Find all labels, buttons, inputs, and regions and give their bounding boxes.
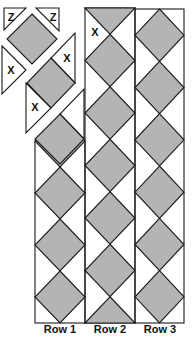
row-2-diamond <box>85 244 135 297</box>
row-3-diamond <box>135 271 184 323</box>
row-2-diamond <box>85 87 135 140</box>
row-2-diamond <box>85 139 135 192</box>
row-3-diamond <box>135 61 184 113</box>
row-2-label: Row 2 <box>85 323 135 335</box>
corner-z-label: Z <box>8 11 15 23</box>
quilt-diagram: XZZXXX <box>0 0 193 338</box>
row-3-label: Row 3 <box>135 323 185 335</box>
side-x-label: X <box>31 101 39 113</box>
row-2-x-label: X <box>91 26 99 38</box>
row-1-diamond <box>35 167 85 219</box>
side-x-label: X <box>63 52 71 64</box>
row-3-diamond <box>135 218 184 270</box>
row-3-diamond <box>135 114 184 166</box>
row-1-diamond <box>35 271 85 323</box>
row-2-diamond <box>85 34 135 87</box>
corner-z-label: Z <box>50 11 57 23</box>
row-3-diamond <box>135 9 184 61</box>
row-1-label: Row 1 <box>35 323 85 335</box>
row-2-diamond <box>85 192 135 245</box>
row-3-diamond <box>135 166 184 218</box>
row-1-diamond <box>35 219 85 271</box>
row-2-half-diamond-bottom <box>85 297 135 323</box>
side-x-label: X <box>7 64 15 76</box>
